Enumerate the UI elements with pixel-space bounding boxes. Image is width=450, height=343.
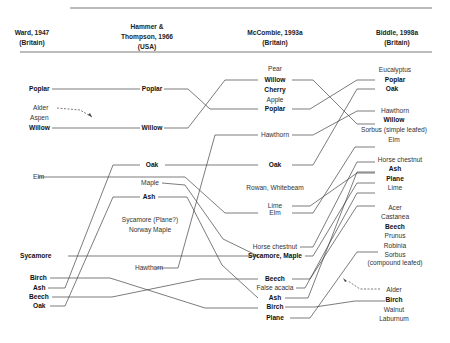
header-ward: Ward, 1947 (Britain)	[15, 28, 50, 48]
biddle-ash: Ash	[389, 165, 401, 173]
mccombie-poplar: Poplar	[265, 105, 286, 113]
mccombie-birch: Birch	[267, 303, 284, 311]
mccombie-apple: Apple	[267, 96, 284, 104]
biddle-plane: Plane	[386, 175, 404, 183]
header-region: (Britain)	[15, 38, 50, 48]
mccombie-sycamore-maple: Sycamore, Maple	[248, 252, 302, 260]
biddle-lime: Lime	[388, 184, 402, 192]
biddle-poplar: Poplar	[385, 76, 406, 84]
biddle-laburnum: Laburnum	[379, 315, 409, 323]
mccombie-beech: Beech	[265, 275, 285, 283]
mccombie-plane: Plane	[266, 314, 284, 322]
hammer-willow: Willow	[142, 124, 163, 132]
hammer-sycamore-plane: Sycamore (Plane?)	[122, 216, 178, 224]
biddle-castanea: Castanea	[381, 213, 409, 221]
biddle-eucalyptus: Eucalyptus	[379, 66, 411, 74]
mccombie-hawthorn: Hawthorn	[261, 131, 289, 139]
header-region: (Britain)	[247, 38, 302, 48]
biddle-beech: Beech	[385, 223, 405, 231]
mccombie-horse-chestnut: Horse chestnut	[253, 243, 297, 251]
mccombie-cherry: Cherry	[264, 86, 285, 94]
biddle-willow: Willow	[384, 116, 405, 124]
biddle-sorbus-compound-note: (compound leafed)	[368, 259, 423, 267]
header-biddle: Biddle, 1998a (Britain)	[376, 28, 418, 48]
ward-oak: Oak	[33, 302, 45, 310]
ward-poplar: Poplar	[29, 85, 50, 93]
header-title: McCombie, 1993a	[247, 28, 302, 38]
biddle-sorbus-compound: Sorbus	[385, 251, 406, 259]
mccombie-oak: Oak	[269, 161, 281, 169]
hammer-norway-maple: Norway Maple	[129, 226, 171, 234]
mccombie-pear: Pear	[268, 65, 282, 73]
connector-lines	[0, 0, 450, 343]
ward-alder: Alder	[33, 104, 48, 112]
biddle-birch: Birch	[386, 296, 403, 304]
ward-beech: Beech	[29, 293, 49, 301]
ward-aspen: Aspen	[30, 114, 49, 122]
header-region: (Britain)	[376, 38, 418, 48]
biddle-hawthorn: Hawthorn	[381, 107, 409, 115]
ward-sycamore: Sycamore	[20, 252, 52, 260]
header-title: Biddle, 1998a	[376, 28, 418, 38]
hammer-hawthorn: Hawthorn	[135, 264, 163, 272]
biddle-walnut: Walnut	[384, 306, 404, 314]
ward-willow: Willow	[29, 124, 50, 132]
mccombie-elm: Elm	[269, 209, 280, 217]
hammer-ash: Ash	[143, 193, 155, 201]
hammer-maple: Maple	[141, 179, 159, 187]
header-title: Hammer &	[121, 22, 173, 32]
biddle-alder: Alder	[386, 286, 401, 294]
mccombie-false-acacia: False acacia	[256, 284, 293, 292]
biddle-oak: Oak	[386, 85, 398, 93]
mccombie-ash: Ash	[269, 294, 281, 302]
header-region: (USA)	[121, 42, 173, 52]
header-hammer-thompson: Hammer & Thompson, 1966 (USA)	[121, 22, 173, 52]
ward-birch: Birch	[30, 274, 47, 282]
header-mccombie: McCombie, 1993a (Britain)	[247, 28, 302, 48]
mccombie-rowan-whitebeam: Rowan, Whitebeam	[246, 184, 304, 192]
biddle-sorbus-simple: Sorbus (simple leafed)	[361, 126, 427, 134]
biddle-acer: Acer	[388, 204, 402, 212]
mccombie-willow: Willow	[265, 76, 286, 84]
hammer-oak: Oak	[146, 161, 158, 169]
biddle-elm: Elm	[388, 136, 399, 144]
ward-elm: Elm	[33, 173, 44, 181]
hammer-poplar: Poplar	[142, 85, 163, 93]
header-title-line2: Thompson, 1966	[121, 32, 173, 42]
biddle-prunus: Prunus	[385, 232, 406, 240]
ward-ash: Ash	[33, 284, 45, 292]
header-title: Ward, 1947	[15, 28, 50, 38]
biddle-horse-chestnut: Horse chestnut	[378, 156, 422, 164]
biddle-robinia: Robinia	[384, 242, 406, 250]
